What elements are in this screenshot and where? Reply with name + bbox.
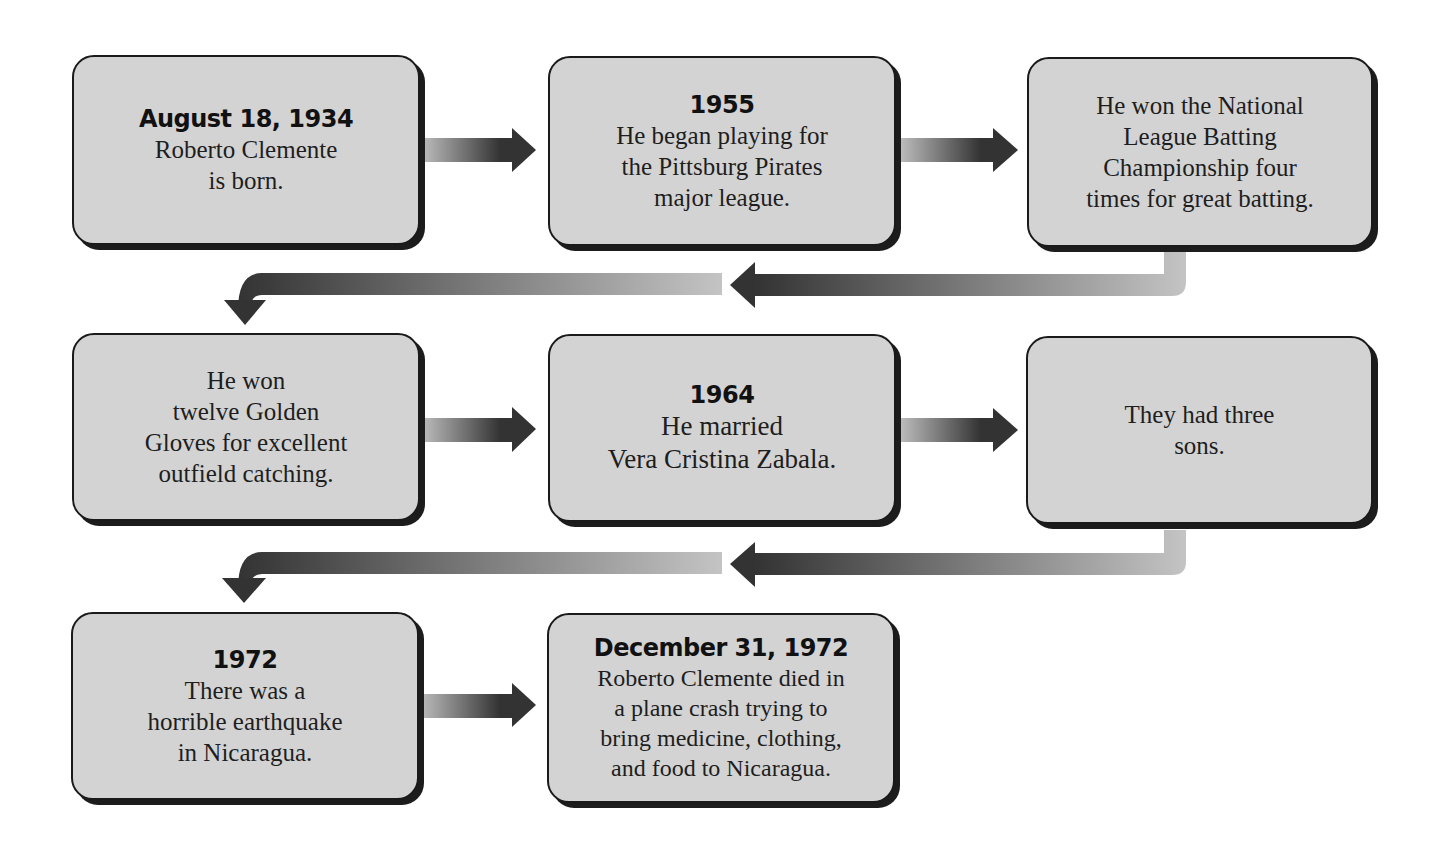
wrap-arrow-icon [222,530,1186,603]
event-box-earthquake: 1972 There was a horrible earthquake in … [71,612,419,800]
event-text: He won twelve Golden Gloves for excellen… [145,365,348,489]
event-text: He married Vera Cristina Zabala. [608,410,837,476]
wrap-arrow-icon [224,250,1186,325]
arrow-right-icon [420,683,536,727]
event-date: 1972 [213,645,278,675]
event-box-golden-gloves: He won twelve Golden Gloves for excellen… [72,333,420,521]
event-date: 1964 [690,380,755,410]
event-box-death: December 31, 1972 Roberto Clemente died … [547,613,895,803]
event-date: December 31, 1972 [594,633,849,663]
arrow-right-icon [422,128,536,172]
event-text: Roberto Clemente is born. [155,134,338,196]
event-date: August 18, 1934 [139,104,353,134]
event-text: He began playing for the Pittsburg Pirat… [616,120,828,213]
event-box-batting-championship: He won the National League Batting Champ… [1027,57,1373,247]
event-box-birth: August 18, 1934 Roberto Clemente is born… [72,55,420,245]
event-text: They had three sons. [1125,399,1275,461]
event-text: Roberto Clemente died in a plane crash t… [597,663,844,783]
arrow-right-icon [900,128,1018,172]
arrow-right-icon [900,408,1018,452]
event-box-marriage: 1964 He married Vera Cristina Zabala. [548,334,896,522]
event-box-pirates: 1955 He began playing for the Pittsburg … [548,56,896,246]
event-box-sons: They had three sons. [1026,336,1373,524]
event-date: 1955 [690,90,755,120]
event-text: He won the National League Batting Champ… [1086,90,1314,214]
event-text: There was a horrible earthquake in Nicar… [147,675,342,768]
arrow-right-icon [422,407,536,452]
